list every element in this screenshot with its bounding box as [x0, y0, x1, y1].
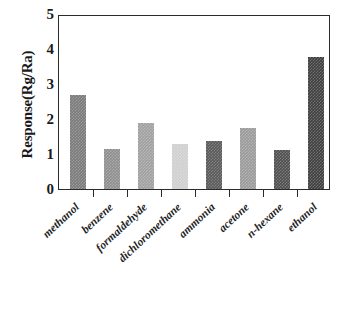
bar: [104, 149, 120, 189]
bar-series: [59, 16, 329, 189]
y-axis-tick-label: 3: [34, 77, 54, 92]
bar: [240, 128, 256, 189]
x-axis-tick: [161, 190, 162, 197]
bar: [308, 57, 324, 189]
y-axis-tick-label: 0: [34, 182, 54, 197]
y-axis-title: Response(Rg/Ra): [19, 10, 36, 200]
x-axis-tick: [93, 190, 94, 197]
y-axis-tick-label: 4: [34, 42, 54, 57]
bar: [206, 141, 222, 189]
x-axis-tick: [263, 190, 264, 197]
bar: [138, 123, 154, 190]
y-axis-tick-label: 1: [34, 147, 54, 162]
x-axis-tick: [127, 190, 128, 197]
x-axis-label-ethanol: ethanol: [194, 201, 319, 313]
bar: [274, 150, 290, 189]
plot-area: [58, 15, 330, 190]
bar: [70, 95, 86, 190]
y-axis-tick-label: 2: [34, 112, 54, 127]
bar: [172, 144, 188, 189]
y-axis-tick-label: 5: [34, 7, 54, 22]
x-axis-tick: [297, 190, 298, 197]
x-axis-tick: [229, 190, 230, 197]
bar-chart-figure: Response(Rg/Ra) 012345 methanolbenzenefo…: [0, 0, 346, 313]
x-axis-tick: [195, 190, 196, 197]
